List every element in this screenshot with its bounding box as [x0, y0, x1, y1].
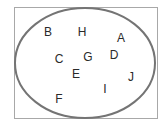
set-ellipse [0, 0, 164, 124]
element-label-d: D [110, 49, 119, 61]
element-label-g: G [83, 51, 92, 63]
element-label-b: B [44, 26, 52, 38]
element-label-e: E [72, 68, 80, 80]
element-label-f: F [55, 93, 62, 105]
element-label-c: C [55, 53, 64, 65]
element-label-h: H [78, 26, 87, 38]
element-label-j: J [128, 71, 134, 83]
element-label-i: I [103, 83, 106, 95]
set-diagram: B H A C G D E J I F [0, 0, 164, 124]
element-label-a: A [117, 32, 125, 44]
